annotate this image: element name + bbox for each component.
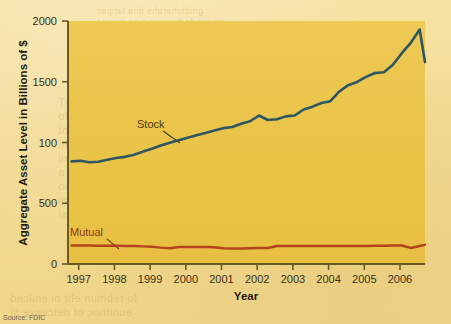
plot-area: [68, 21, 425, 264]
y-tick-label: 0: [51, 258, 57, 270]
x-tick-label: 2004: [316, 273, 340, 285]
stock-series-label: Stock: [137, 118, 165, 130]
y-tick-label: 500: [39, 197, 57, 209]
source-note: Source: FDIC: [3, 314, 45, 321]
y-tick-label: 100: [39, 137, 57, 149]
y-tick-label: 1500: [33, 76, 57, 88]
x-tick-label: 2003: [281, 273, 305, 285]
y-tick-label: 2000: [33, 15, 57, 27]
x-tick-label: 1998: [102, 273, 126, 285]
line-chart: 2000 1500 100 500 0 1997 1998 1999 2000 …: [0, 0, 451, 324]
x-tick-label: 2001: [209, 273, 233, 285]
x-axis-title: Year: [234, 290, 259, 302]
x-tick-label: 2006: [388, 273, 412, 285]
chart-figure: gnidloherahs dna latipac stessa fo tnecr…: [0, 0, 451, 324]
x-tick-label: 1999: [138, 273, 162, 285]
x-tick-label: 2002: [245, 273, 269, 285]
y-axis-tick-labels: 2000 1500 100 500 0: [33, 15, 57, 270]
x-tick-label: 2005: [352, 273, 376, 285]
x-tick-label: 1997: [66, 273, 90, 285]
x-axis-tick-labels: 1997 1998 1999 2000 2001 2002 2003 2004 …: [66, 273, 412, 285]
y-axis-title: Aggregate Asset Level in Billions of $: [17, 40, 29, 246]
mutual-series-label: Mutual: [70, 226, 103, 238]
x-tick-label: 2000: [174, 273, 198, 285]
